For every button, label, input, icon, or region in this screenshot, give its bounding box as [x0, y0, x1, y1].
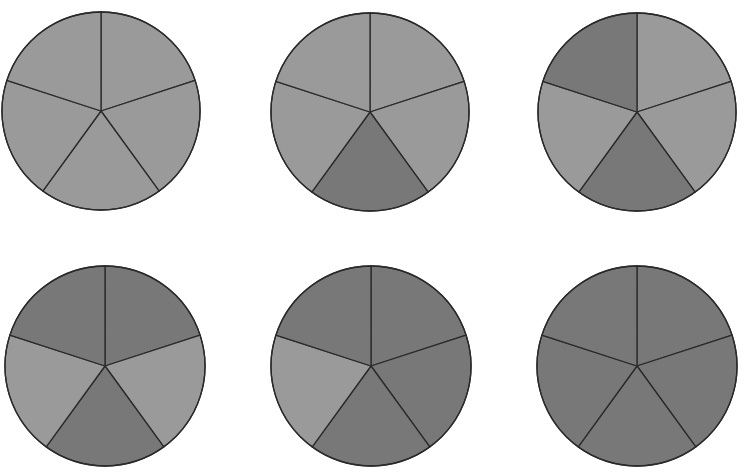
fraction-pie-4: [5, 266, 205, 466]
fraction-pie-5: [271, 266, 471, 466]
fraction-pie-3: [538, 13, 736, 211]
fraction-pie-6: [537, 266, 737, 466]
fraction-pies-canvas: [0, 0, 749, 473]
fraction-pie-2: [271, 13, 469, 211]
fraction-pie-1: [2, 12, 200, 210]
